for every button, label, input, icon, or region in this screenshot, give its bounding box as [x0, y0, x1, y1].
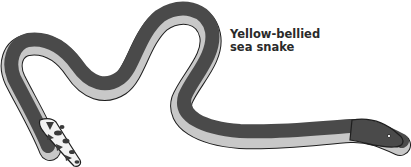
snake-eye — [387, 134, 390, 137]
illustration-canvas: Yellow-bellied sea snake — [0, 0, 411, 167]
species-caption: Yellow-bellied sea snake — [230, 28, 320, 54]
caption-line-2: sea snake — [230, 41, 320, 54]
snake-illustration — [0, 0, 411, 167]
